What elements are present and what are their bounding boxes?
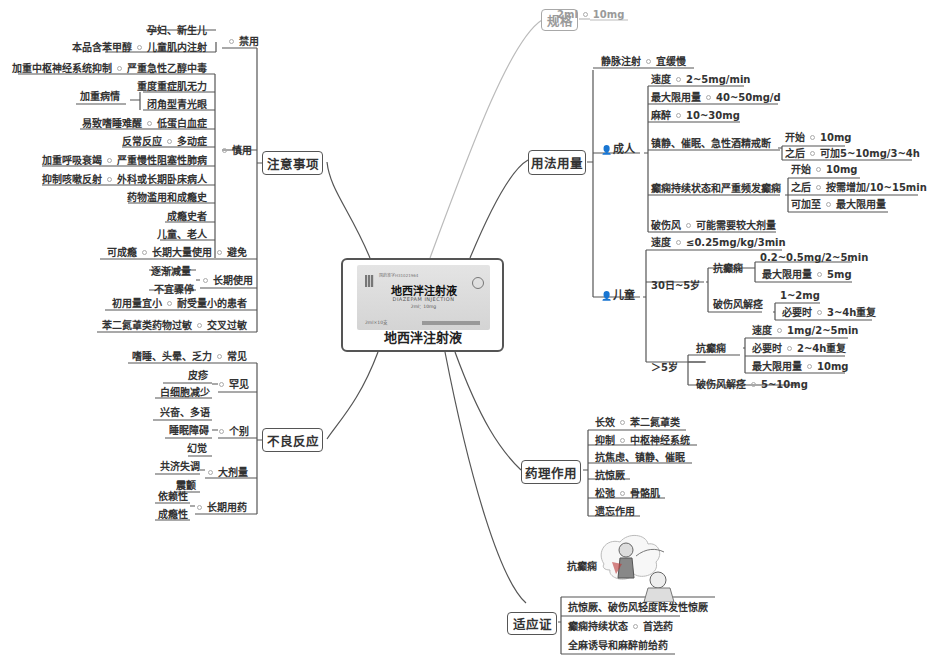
caution-copd[interactable]: 加重呼吸衰竭严重慢性阻塞性肺病 bbox=[42, 154, 207, 167]
usage-child[interactable]: 👤儿童 bbox=[601, 289, 635, 303]
branch-indications[interactable]: 适应证 bbox=[507, 612, 557, 635]
adverse-common[interactable]: 嗜睡、头晕、乏力常见 bbox=[132, 350, 247, 363]
avoid-long-term[interactable]: 可成瘾长期大量使用避免 bbox=[107, 246, 247, 259]
usage-adult[interactable]: 👤成人 bbox=[601, 143, 635, 157]
connector-dot-icon bbox=[817, 272, 822, 277]
child-30d-5y-epilepsy-dose[interactable]: 0.2~0.5mg/2~5min bbox=[760, 251, 868, 264]
adverse-hallucination[interactable]: 幻觉 bbox=[187, 442, 207, 455]
adverse-dependence[interactable]: 依赖性 bbox=[158, 490, 188, 503]
connector-dot-icon bbox=[203, 278, 208, 283]
connector-dot-icon bbox=[620, 438, 625, 443]
central-topic[interactable]: 国药准字H31021964 地西泮注射液 DIAZEPAM INJECTION … bbox=[341, 258, 504, 352]
long-term-taper[interactable]: 逐渐减量 bbox=[151, 265, 191, 278]
indication-anesthesia[interactable]: 全麻诱导和麻醉前给药 bbox=[568, 639, 668, 652]
branch-adverse-reactions[interactable]: 不良反应 bbox=[262, 428, 323, 452]
pharm-inhibit[interactable]: 抑制中枢神经系统 bbox=[595, 434, 690, 447]
indication-anticonvulsant[interactable]: 抗惊厥、破伤风轻度阵发性惊厥 bbox=[568, 601, 708, 614]
caution-worsen-group[interactable]: 加重病情 bbox=[80, 90, 120, 103]
connector-dot-icon bbox=[810, 135, 815, 140]
connector-dot-icon bbox=[217, 250, 222, 255]
pharm-relax[interactable]: 松弛骨骼肌 bbox=[595, 487, 660, 500]
adverse-individual-label[interactable]: 个别 bbox=[214, 425, 249, 438]
branch-pharmacology[interactable]: 药理作用 bbox=[521, 460, 581, 484]
caution-hypoalbuminemia[interactable]: 易致嗜睡难醒低蛋白血症 bbox=[82, 117, 207, 130]
child-over-5y-tetanus[interactable]: 破伤风解痉5~10mg bbox=[696, 378, 808, 391]
connector-dot-icon bbox=[777, 328, 782, 333]
child-30d-5y[interactable]: 30日~5岁 bbox=[651, 279, 700, 292]
pharm-amnesia[interactable]: 遗忘作用 bbox=[595, 505, 635, 518]
connector-dot-icon bbox=[816, 167, 821, 172]
caution-addiction[interactable]: 成瘾史者 bbox=[167, 210, 207, 223]
connector-dot-icon bbox=[810, 151, 815, 156]
child-30d-5y-tetanus[interactable]: 破伤风解痉 bbox=[713, 298, 763, 311]
connector-dot-icon bbox=[816, 185, 821, 190]
contraindicated-pregnant[interactable]: 孕妇、新生儿 bbox=[147, 24, 207, 37]
connector-dot-icon bbox=[219, 429, 224, 434]
caution-drug-abuse[interactable]: 药物滥用和成瘾史 bbox=[127, 191, 207, 204]
low-tolerance[interactable]: 初用量宜小耐受量小的患者 bbox=[112, 297, 247, 310]
caution-myasthenia[interactable]: 重度重症肌无力 bbox=[137, 80, 207, 93]
connector-dot-icon bbox=[137, 45, 142, 50]
adult-sedation-after[interactable]: 之后可加5~10mg/3~4h bbox=[785, 147, 920, 160]
adult-status-epilepticus[interactable]: 癫痫持续状态和严重频发癫痫 bbox=[651, 182, 781, 195]
caution-children-elderly[interactable]: 儿童、老人 bbox=[157, 228, 207, 241]
child-30d-5y-epilepsy-max[interactable]: 最大限用量5mg bbox=[762, 268, 852, 281]
branch-usage[interactable]: 用法用量 bbox=[528, 150, 586, 175]
adverse-long-term-label[interactable]: 长期用药 bbox=[192, 501, 247, 514]
usage-iv[interactable]: 静脉注射宜缓慢 bbox=[601, 55, 686, 68]
adverse-ataxia[interactable]: 共济失调 bbox=[160, 460, 200, 473]
connector-dot-icon bbox=[751, 382, 756, 387]
spec-value[interactable]: 2ml10mg bbox=[557, 8, 624, 21]
caution-glaucoma[interactable]: 闭角型青光眼 bbox=[147, 98, 207, 111]
branch-usage-label: 用法用量 bbox=[531, 153, 583, 172]
child-30d-5y-tetanus-dose[interactable]: 1~2mg bbox=[780, 289, 820, 302]
contraindicated-child-im[interactable]: 本品含苯甲醇儿童肌内注射 bbox=[72, 41, 207, 54]
child-over-5y-max[interactable]: 最大限用量10mg bbox=[752, 360, 849, 373]
child-30d-5y-tetanus-repeat[interactable]: 必要时3~4h重复 bbox=[782, 306, 876, 319]
child-speed[interactable]: 速度≤0.25mg/kg/3min bbox=[651, 236, 786, 249]
adult-epilepsy-after[interactable]: 之后按需增加/10~15min bbox=[791, 181, 927, 194]
caution-alcohol[interactable]: 加重中枢神经系统抑制严重急性乙醇中毒 bbox=[12, 62, 207, 75]
contraindicated-label[interactable]: 禁用 bbox=[224, 35, 259, 48]
adverse-rare-rash[interactable]: 皮疹 bbox=[188, 369, 208, 382]
child-over-5y[interactable]: ＞5岁 bbox=[651, 361, 678, 374]
adult-epilepsy-start[interactable]: 开始10mg bbox=[791, 163, 858, 176]
caution-hyperactivity[interactable]: 反常反应多动症 bbox=[122, 135, 207, 148]
caution-label[interactable]: 慎用 bbox=[217, 144, 252, 157]
manufacturer-logo-bar bbox=[422, 321, 480, 325]
adult-sedation[interactable]: 镇静、催眠、急性酒精戒断 bbox=[651, 137, 771, 150]
caution-bedridden[interactable]: 抑制咳嗽反射外科或长期卧床病人 bbox=[42, 173, 207, 186]
adult-epilepsy-upto[interactable]: 可加至最大限用量 bbox=[791, 198, 886, 211]
pharm-anxiolytic[interactable]: 抗焦虑、镇静、催眠 bbox=[595, 451, 685, 464]
adult-tetanus[interactable]: 破伤风可能需要较大剂量 bbox=[651, 219, 776, 232]
long-term-no-abrupt-stop[interactable]: 不宜骤停 bbox=[154, 283, 194, 296]
adverse-high-dose-label[interactable]: 大剂量 bbox=[203, 466, 248, 479]
indication-status-epilepticus[interactable]: 癫痫持续状态首选药 bbox=[568, 620, 673, 633]
package-approval-number: 国药准字H31021964 bbox=[379, 272, 418, 278]
long-term-use-label[interactable]: 长期使用 bbox=[198, 274, 253, 287]
connector-dot-icon bbox=[817, 310, 822, 315]
adult-max-dose[interactable]: 最大限用量40~50mg/d bbox=[651, 91, 781, 104]
pharm-long-acting[interactable]: 长效苯二氮䓬类 bbox=[595, 416, 680, 429]
child-30d-5y-epilepsy[interactable]: 抗癫痫 bbox=[713, 262, 743, 275]
connector-dot-icon bbox=[208, 470, 213, 475]
adverse-addiction[interactable]: 成瘾性 bbox=[158, 508, 188, 521]
adverse-excitement[interactable]: 兴奋、多语 bbox=[160, 406, 210, 419]
child-over-5y-speed[interactable]: 速度1mg/2~5min bbox=[752, 324, 858, 337]
branch-adverse-label: 不良反应 bbox=[267, 431, 319, 450]
child-over-5y-epilepsy[interactable]: 抗癫痫 bbox=[696, 342, 726, 355]
adult-sedation-start[interactable]: 开始10mg bbox=[785, 131, 852, 144]
indication-image-label: 抗癫痫 bbox=[567, 560, 597, 573]
child-over-5y-repeat[interactable]: 必要时2~4h重复 bbox=[752, 342, 846, 355]
branch-precautions[interactable]: 注意事项 bbox=[262, 151, 323, 175]
connector-dot-icon bbox=[197, 323, 202, 328]
adverse-rare-label[interactable]: 罕见 bbox=[214, 378, 249, 391]
adverse-rare-leukopenia[interactable]: 白细胞减少 bbox=[160, 386, 210, 399]
adult-speed[interactable]: 速度2~5mg/min bbox=[651, 73, 751, 86]
adult-anesthesia[interactable]: 麻醉10~30mg bbox=[651, 109, 740, 122]
connector-dot-icon bbox=[583, 12, 588, 17]
cross-allergy[interactable]: 苯二氮䓬类药物过敏交叉过敏 bbox=[102, 319, 247, 332]
adverse-sleep-disorder[interactable]: 睡眠障碍 bbox=[169, 424, 209, 437]
connector-dot-icon bbox=[142, 250, 147, 255]
pharm-anticonvulsant[interactable]: 抗惊厥 bbox=[595, 469, 625, 482]
